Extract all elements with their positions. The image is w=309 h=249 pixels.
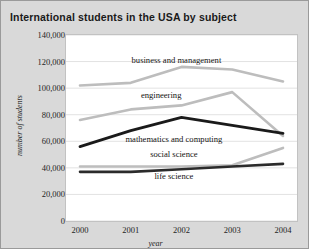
x-tick-label: 2004 (261, 225, 305, 235)
x-axis-title: year (1, 239, 309, 248)
series-line (80, 67, 283, 86)
series-label: engineering (141, 90, 182, 100)
series-label: business and management (132, 55, 222, 65)
y-tick-label: 120,000 (5, 57, 65, 67)
x-tick-label: 2000 (58, 225, 102, 235)
x-tick-label: 2002 (160, 225, 204, 235)
y-axis-title: number of students (15, 81, 24, 171)
y-tick-label: 140,000 (5, 30, 65, 40)
x-tick-label: 2003 (210, 225, 254, 235)
chart-title: International students in the USA by sub… (10, 11, 300, 23)
series-label: mathematics and computing (125, 134, 222, 144)
y-tick-label: 20,000 (5, 189, 65, 199)
x-tick-label: 2001 (109, 225, 153, 235)
series-label: life science (154, 171, 193, 181)
y-tick-label: 0 (5, 216, 65, 226)
plot-area: business and managementengineeringmathem… (65, 34, 298, 222)
series-label: social science (150, 149, 197, 159)
chart-figure: International students in the USA by sub… (0, 0, 309, 249)
